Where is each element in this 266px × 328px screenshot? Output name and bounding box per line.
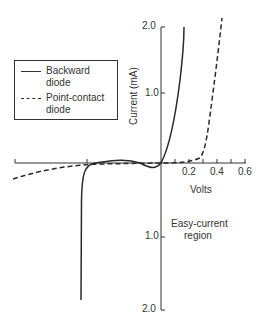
legend-item-backward-diode: Backward diode xyxy=(21,65,90,89)
legend-label: diode xyxy=(46,104,104,116)
annotation-line2: region xyxy=(184,230,212,241)
legend-label: diode xyxy=(46,77,90,89)
y-tick-label: 1.0 xyxy=(145,87,159,98)
legend-item-point-contact-diode: Point-contact diode xyxy=(21,92,104,116)
x-tick-label: 0.4 xyxy=(210,166,224,177)
dashed-line-icon xyxy=(21,98,41,99)
legend: Backward diode Point-contact diode xyxy=(14,60,118,120)
legend-label: Point-contact xyxy=(46,92,104,104)
y-tick-label: 1.0 xyxy=(145,230,159,241)
x-tick-label: 0.2 xyxy=(182,166,196,177)
y-axis-label: Current (mA) xyxy=(128,67,139,125)
x-axis-label: Volts xyxy=(190,184,212,195)
y-tick-label: 2.0 xyxy=(142,20,156,31)
annotation-line1: Easy-current xyxy=(171,218,228,229)
legend-label: Backward xyxy=(46,65,90,77)
chart-canvas xyxy=(0,0,266,328)
solid-line-icon xyxy=(21,71,41,72)
y-tick-label: 2.0 xyxy=(142,303,156,314)
x-tick-label: 0.6 xyxy=(238,166,252,177)
